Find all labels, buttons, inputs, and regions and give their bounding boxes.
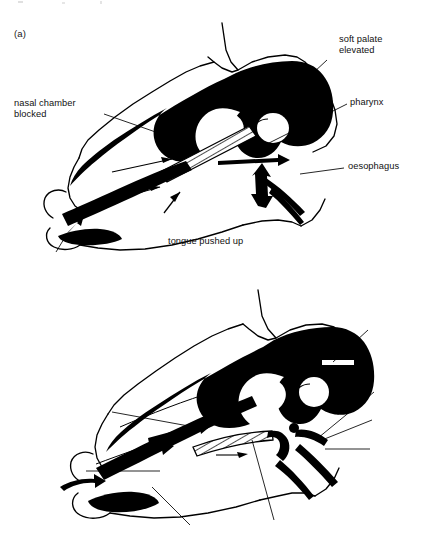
figure-root: (a) soft palate elevated nasal chamber b… [0,0,445,544]
panel-b-breathing: (b) gutteral pouch oesophagus epiglottis… [0,272,445,544]
cranial-nasal-mass [70,61,333,186]
label-soft-palate-elevated: soft palate elevated [339,34,382,56]
panel-a-tag: (a) [14,28,26,39]
panel-a-swallowing: (a) soft palate elevated nasal chamber b… [0,0,445,272]
label-tongue-pushed-up: tongue pushed up [168,236,243,247]
label-pharynx: pharynx [350,97,383,108]
cranial-nasal-mass-b [106,327,374,452]
panel-b-illustration [0,272,445,544]
label-oesophagus: oesophagus [348,161,399,172]
tongue-tip-a [58,229,122,245]
tongue-body-b [88,492,159,512]
airflow-arrows-b [60,419,212,491]
bolus-arrows-a [218,154,305,225]
label-nasal-chamber-blocked: nasal chamber blocked [14,98,76,120]
soft-palate-hatched-b [193,431,273,456]
larynx-trachea-b [267,423,338,500]
